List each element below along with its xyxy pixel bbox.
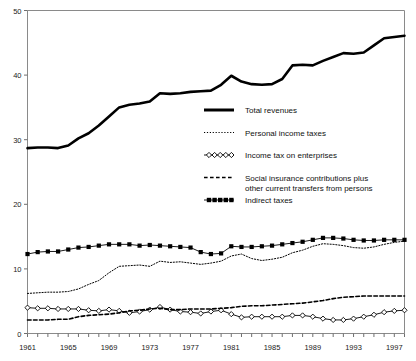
series-marker bbox=[45, 306, 50, 311]
series-marker bbox=[320, 316, 325, 321]
series-marker bbox=[97, 244, 101, 248]
x-tick-label: 1997 bbox=[386, 343, 403, 352]
series-marker bbox=[382, 310, 387, 315]
legend-item[interactable]: Personal income taxes bbox=[204, 129, 326, 138]
series-marker bbox=[351, 316, 356, 321]
series-marker bbox=[25, 305, 30, 310]
series-line bbox=[28, 36, 405, 148]
y-tick-label: 20 bbox=[13, 200, 21, 209]
series-marker bbox=[392, 238, 396, 242]
series-marker bbox=[209, 252, 213, 256]
series-marker bbox=[96, 308, 101, 313]
legend-swatch-marker bbox=[224, 198, 228, 202]
x-tick-label: 1977 bbox=[182, 343, 199, 352]
series-marker bbox=[66, 306, 71, 311]
series-marker bbox=[341, 236, 345, 240]
legend-swatch-marker bbox=[212, 198, 216, 202]
line-chart: 0102030405019611965196919731977198119851… bbox=[0, 0, 416, 361]
series-marker bbox=[372, 238, 376, 242]
series-marker bbox=[239, 315, 244, 320]
y-tick-label: 0 bbox=[17, 330, 21, 339]
series-marker bbox=[301, 240, 305, 244]
series-marker bbox=[137, 244, 141, 248]
series-marker bbox=[382, 238, 386, 242]
series-marker bbox=[148, 243, 152, 247]
series-marker bbox=[362, 238, 366, 242]
series-marker bbox=[321, 236, 325, 240]
series-marker bbox=[341, 317, 346, 322]
legend-item-label: Indirect taxes bbox=[245, 196, 293, 205]
series-marker bbox=[127, 242, 131, 246]
x-tick-label: 1989 bbox=[304, 343, 321, 352]
x-tick-label: 1961 bbox=[19, 343, 36, 352]
series-marker bbox=[76, 306, 81, 311]
x-tick-label: 1973 bbox=[141, 343, 158, 352]
x-tick-label: 1993 bbox=[345, 343, 362, 352]
series-marker bbox=[311, 238, 315, 242]
legend-item-label-line2: other current transfers from persons bbox=[245, 184, 373, 193]
series-marker bbox=[76, 245, 80, 249]
legend-swatch-marker bbox=[218, 152, 223, 157]
series-marker bbox=[56, 249, 60, 253]
series-marker bbox=[361, 314, 366, 319]
series-marker bbox=[168, 244, 172, 248]
series-marker bbox=[331, 236, 335, 240]
series-marker bbox=[402, 308, 407, 313]
series-marker bbox=[178, 245, 182, 249]
series-marker bbox=[280, 314, 285, 319]
series-marker bbox=[259, 314, 264, 319]
y-tick-label: 40 bbox=[13, 71, 21, 80]
legend-swatch-marker bbox=[207, 198, 211, 202]
series-marker bbox=[402, 238, 406, 242]
y-tick-label: 30 bbox=[13, 136, 21, 145]
series-marker bbox=[188, 245, 192, 249]
series-marker bbox=[239, 245, 243, 249]
series-marker bbox=[86, 308, 91, 313]
legend-swatch-marker bbox=[218, 198, 222, 202]
series-marker bbox=[310, 314, 315, 319]
series-marker bbox=[36, 250, 40, 254]
series-marker bbox=[107, 242, 111, 246]
series-marker bbox=[117, 242, 121, 246]
x-tick-label: 1981 bbox=[223, 343, 240, 352]
chart-container: 0102030405019611965196919731977198119851… bbox=[0, 0, 416, 361]
legend-item[interactable]: Social insurance contributions plusother… bbox=[204, 174, 373, 193]
series-marker bbox=[290, 241, 294, 245]
series-marker bbox=[66, 247, 70, 251]
series-marker bbox=[351, 238, 355, 242]
legend-swatch-marker bbox=[223, 152, 228, 157]
series-marker bbox=[331, 317, 336, 322]
series-marker bbox=[25, 252, 29, 256]
series-marker bbox=[300, 313, 305, 318]
series-marker bbox=[199, 250, 203, 254]
legend-item[interactable]: Total revenues bbox=[204, 106, 297, 115]
legend-item-label: Total revenues bbox=[245, 106, 297, 115]
legend-item-label: Income tax on enterprises bbox=[245, 151, 337, 160]
series-marker bbox=[269, 314, 274, 319]
series-marker bbox=[280, 242, 284, 246]
series-marker bbox=[87, 245, 91, 249]
series-1 bbox=[28, 241, 405, 293]
series-0 bbox=[28, 36, 405, 148]
series-marker bbox=[55, 306, 60, 311]
series-marker bbox=[249, 314, 254, 319]
series-marker bbox=[260, 244, 264, 248]
series-marker bbox=[392, 308, 397, 313]
series-marker bbox=[46, 249, 50, 253]
series-marker bbox=[158, 244, 162, 248]
legend-swatch-marker bbox=[229, 152, 234, 157]
series-4 bbox=[25, 236, 406, 256]
legend-item[interactable]: Indirect taxes bbox=[204, 196, 293, 205]
x-tick-label: 1985 bbox=[264, 343, 281, 352]
legend: Total revenuesPersonal income taxesIncom… bbox=[204, 106, 373, 205]
series-marker bbox=[371, 312, 376, 317]
legend-swatch-marker bbox=[212, 152, 217, 157]
series-3 bbox=[28, 296, 405, 320]
legend-swatch-marker bbox=[206, 152, 211, 157]
series-marker bbox=[198, 311, 203, 316]
x-tick-label: 1965 bbox=[60, 343, 77, 352]
legend-swatch-marker bbox=[229, 198, 233, 202]
series-line bbox=[28, 238, 405, 254]
legend-item[interactable]: Income tax on enterprises bbox=[204, 151, 337, 160]
series-marker bbox=[290, 313, 295, 318]
